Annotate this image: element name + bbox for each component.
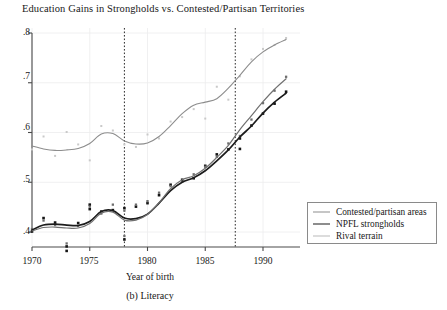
legend-label-rival: Rival terrain [336,230,383,242]
scatter-point-contested-14 [193,108,195,110]
scatter-point-npfl-24 [42,217,45,220]
legend-item-contested[interactable]: Contested/partisan areas [312,206,432,218]
scatter-point-contested-19 [250,58,252,60]
scatter-point-contested-20 [262,48,264,50]
scatter-point-contested-15 [204,118,206,120]
panel-caption: (b) Literacy [0,290,300,301]
series-line-npfl-strongholds [32,93,286,230]
series-line-rival-terrain [32,79,286,231]
scatter-point-npfl-27 [65,250,68,253]
scatter-point-contested-7 [112,130,114,132]
legend-item-rival[interactable]: Rival terrain [312,230,432,242]
scatter-point-npfl-37 [158,194,161,197]
xtick-label-1975: 1975 [69,256,109,266]
legend-label-npfl: NPFL strongholds [336,218,404,230]
ytick-label-4: .4 [10,226,30,236]
scatter-point-rival-70 [250,118,252,120]
x-axis-label: Year of birth [0,272,300,282]
scatter-point-npfl-26 [65,245,68,248]
scatter-point-npfl-29 [88,208,91,211]
scatter-point-rival-61 [146,200,148,202]
legend-item-npfl[interactable]: NPFL strongholds [312,218,432,230]
scatter-point-rival-63 [169,185,171,187]
scatter-point-rival-60 [135,203,137,205]
legend-line-icon-npfl [312,220,331,228]
figure-container: Education Gains in Strongholds vs. Conte… [0,0,447,310]
scatter-point-npfl-33 [123,207,126,210]
scatter-point-contested-1 [43,135,45,137]
scatter-point-contested-13 [181,116,183,118]
chart-legend: Contested/partisan areas NPFL stronghold… [307,202,437,244]
scatter-point-contested-2 [54,155,56,157]
scatter-point-contested-4 [77,143,79,145]
scatter-point-contested-9 [135,146,137,148]
xtick-label-1985: 1985 [185,256,225,266]
ytick-label-2: .6 [10,122,30,132]
scatter-point-rival-62 [158,192,160,194]
scatter-point-rival-57 [112,203,114,205]
scatter-point-rival-73 [285,76,287,78]
scatter-point-contested-8 [123,143,125,145]
scatter-point-contested-6 [100,125,102,127]
series-line-contested-partisan-areas [32,39,286,150]
scatter-point-contested-12 [170,121,172,123]
scatter-point-contested-0 [31,148,33,150]
scatter-point-rival-55 [89,205,91,207]
scatter-point-contested-3 [66,131,68,133]
scatter-point-contested-22 [285,37,287,39]
scatter-point-contested-17 [227,99,229,101]
scatter-point-npfl-34 [123,238,126,241]
xtick-label-1990: 1990 [243,256,283,266]
ytick-label-0: .8 [10,27,30,37]
ytick-label-1: .7 [10,71,30,81]
scatter-point-npfl-45 [239,148,242,151]
scatter-point-rival-58 [123,209,125,211]
legend-line-icon-contested [312,208,331,216]
scatter-point-rival-59 [123,235,125,237]
scatter-point-contested-5 [89,159,91,161]
scatter-point-contested-16 [216,86,218,88]
scatter-point-contested-11 [158,137,160,139]
legend-label-contested: Contested/partisan areas [336,206,427,218]
xtick-label-1970: 1970 [12,256,52,266]
scatter-point-contested-10 [147,133,149,135]
legend-line-icon-rival [312,232,331,240]
scatter-point-rival-53 [66,242,68,244]
scatter-point-rival-51 [42,219,44,221]
scatter-point-npfl-28 [77,222,80,225]
scatter-point-npfl-42 [216,153,219,156]
ytick-label-3: .5 [10,174,30,184]
xtick-label-1980: 1980 [127,256,167,266]
